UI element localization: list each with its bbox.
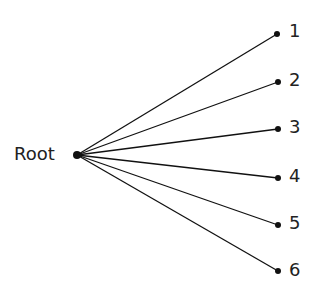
node-5	[275, 222, 281, 228]
child-label-5: 5	[289, 214, 300, 232]
root-node	[73, 151, 81, 159]
child-label-6: 6	[289, 261, 300, 279]
edge-6	[77, 155, 278, 271]
node-3	[275, 126, 281, 132]
edge-4	[77, 155, 278, 178]
node-2	[275, 79, 281, 85]
edge-5	[77, 155, 278, 225]
edge-3	[77, 129, 278, 155]
child-label-1: 1	[289, 22, 300, 40]
child-label-2: 2	[289, 71, 300, 89]
root-label: Root	[14, 145, 55, 163]
edge-2	[77, 82, 278, 155]
child-label-3: 3	[289, 118, 300, 136]
node-4	[275, 175, 281, 181]
node-1	[274, 31, 280, 37]
edge-1	[77, 34, 277, 155]
child-label-4: 4	[289, 167, 300, 185]
node-6	[275, 268, 281, 274]
